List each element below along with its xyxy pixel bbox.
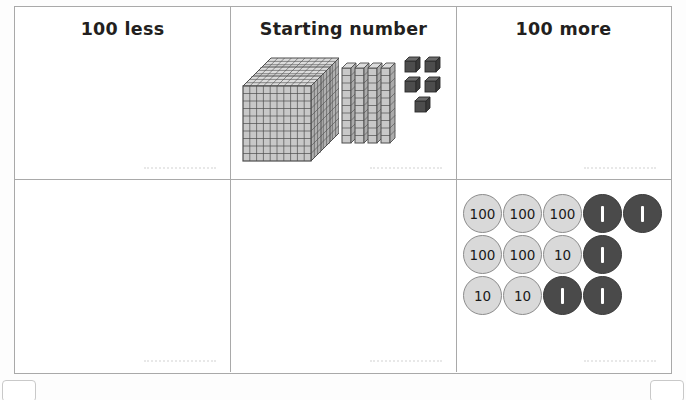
counter-one [583,235,622,274]
counter-label [601,206,604,222]
counter-hundred: 100 [463,194,502,233]
table-row-bottom: 100 100 100 [15,179,671,372]
counter-label: 100 [550,206,576,222]
counter-hundred: 100 [543,194,582,233]
answer-line[interactable] [370,360,442,362]
worksheet-page: 100 less Starting number [0,0,686,400]
counter-label [601,247,604,263]
column-header-100-less: 100 less [15,7,230,39]
cell-100-less-top[interactable]: 100 less [15,7,231,179]
counter-hundred: 100 [503,235,542,274]
counter-ten: 10 [503,276,542,315]
base-ten-blocks-group [231,47,456,167]
counter-label: 100 [470,247,496,263]
counter-row: 10 10 [463,276,663,315]
place-value-counters-group: 100 100 100 [463,194,663,317]
counter-label [641,206,644,222]
hundreds-flats-icon [239,55,339,169]
cell-starting-number-bottom[interactable] [231,180,457,372]
cell-100-less-bottom[interactable] [15,180,231,372]
counter-one [583,276,622,315]
place-value-table: 100 less Starting number [14,6,672,374]
counter-label: 10 [474,288,491,304]
counter-label: 10 [554,247,571,263]
next-row-partial-right [650,380,684,400]
counter-ten: 10 [543,235,582,274]
counter-one [623,194,662,233]
counter-label: 100 [510,247,536,263]
counter-one [543,276,582,315]
cell-100-more-bottom: 100 100 100 [457,180,670,372]
answer-line[interactable] [370,167,442,169]
counter-row: 100 100 10 [463,235,663,274]
ones-cubes-icon [403,55,449,121]
counter-label: 100 [470,206,496,222]
answer-line[interactable] [584,360,656,362]
column-header-100-more: 100 more [457,7,670,39]
table-row-top: 100 less Starting number [15,7,671,179]
answer-line[interactable] [144,360,216,362]
cell-100-more-top[interactable]: 100 more [457,7,670,179]
ones-cubes-svg [403,55,449,117]
counter-label [561,288,564,304]
counter-label: 10 [514,288,531,304]
counter-ten: 10 [463,276,502,315]
answer-line[interactable] [584,167,656,169]
counter-label [601,288,604,304]
column-header-starting-number: Starting number [231,7,456,39]
cell-starting-number-top: Starting number [231,7,457,179]
next-row-partial-left [2,380,36,400]
counter-one [583,194,622,233]
tens-rods-svg [341,57,399,157]
counter-hundred: 100 [463,235,502,274]
counter-label: 100 [510,206,536,222]
counter-row: 100 100 100 [463,194,663,233]
counter-hundred: 100 [503,194,542,233]
tens-rods-icon [341,57,399,161]
hundreds-flats-svg [239,55,339,165]
answer-line[interactable] [144,167,216,169]
